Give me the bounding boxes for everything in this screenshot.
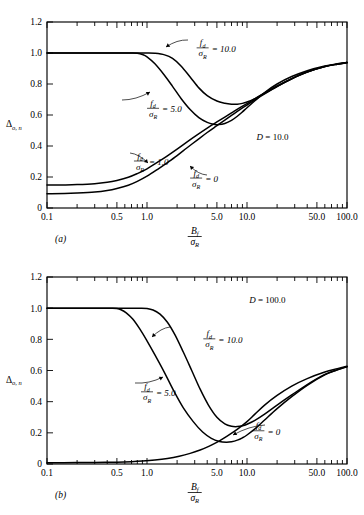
- x-tick-label: 50.0: [309, 212, 326, 222]
- y-tick-label: 0.6: [30, 366, 42, 376]
- panel-a-canvas: 0.10.51.05.010.050.0100.000.20.40.60.81.…: [0, 0, 364, 258]
- x-tick-label: 0.1: [41, 468, 53, 478]
- curve-parameter-annotation: fdσR= 5.0: [147, 98, 182, 120]
- y-tick-label: 0.8: [30, 79, 42, 89]
- param-denominator: σR: [149, 109, 157, 120]
- param-value: = 0: [267, 427, 280, 437]
- x-tick-label: 0.1: [41, 212, 53, 222]
- panel-label: (a): [55, 234, 66, 245]
- x-tick-label: 0.5: [111, 212, 123, 222]
- annotation-leader-line: [122, 92, 150, 100]
- data-curve: [47, 53, 347, 125]
- chart-panel-a: 0.10.51.05.010.050.0100.000.20.40.60.81.…: [0, 0, 364, 258]
- panel-b-canvas: 0.10.51.05.010.050.0100.000.20.40.60.81.…: [0, 255, 364, 515]
- plot-frame: [47, 22, 347, 208]
- curve-parameter-annotation: fdσR= 10.0: [203, 328, 243, 350]
- panel-a-svg: 0.10.51.05.010.050.0100.000.20.40.60.81.…: [0, 0, 364, 258]
- param-value: = 10.0: [212, 44, 237, 54]
- x-axis-label-denominator: σR: [190, 493, 199, 504]
- plot-frame: [47, 277, 347, 464]
- y-tick-label: 0.8: [30, 335, 42, 345]
- x-tick-label: 5.0: [211, 212, 223, 222]
- param-numerator: fd: [137, 151, 144, 162]
- data-curve: [47, 53, 347, 104]
- chart-panel-b: 0.10.51.05.010.050.0100.000.20.40.60.81.…: [0, 255, 364, 515]
- param-denominator: σR: [205, 339, 213, 350]
- param-value: = 5.0: [156, 388, 176, 398]
- param-denominator: σR: [254, 431, 262, 442]
- curve-parameter-annotation: fdσR= 0: [252, 420, 280, 442]
- param-numerator: fd: [207, 328, 214, 339]
- x-tick-label: 1.0: [141, 468, 153, 478]
- y-tick-label: 1.0: [30, 48, 42, 58]
- param-denominator: σR: [143, 392, 151, 403]
- param-value: = 0: [205, 174, 218, 184]
- data-curve: [47, 63, 347, 185]
- y-tick-label: 0: [37, 203, 42, 213]
- x-axis-label-numerator: Bf: [191, 482, 200, 493]
- curve-parameter-annotation: fdσR= 10.0: [197, 37, 237, 59]
- y-tick-label: 0.2: [30, 172, 42, 182]
- annotation-leader-line: [135, 377, 163, 383]
- x-tick-label: 100.0: [336, 212, 358, 222]
- x-tick-label: 10.0: [239, 468, 256, 478]
- param-denominator: σR: [136, 162, 144, 173]
- x-tick-label: 5.0: [211, 468, 223, 478]
- panel-b-svg: 0.10.51.05.010.050.0100.000.20.40.60.81.…: [0, 255, 364, 515]
- x-axis-label-denominator: σR: [190, 237, 199, 248]
- y-tick-label: 0.4: [30, 397, 42, 407]
- param-value: = 10.0: [218, 335, 243, 345]
- x-axis-label-numerator: Bf: [191, 226, 200, 237]
- x-tick-label: 1.0: [141, 212, 153, 222]
- data-curve: [47, 308, 347, 427]
- param-value: = 1.0: [149, 157, 169, 167]
- param-numerator: fd: [150, 98, 157, 109]
- param-numerator: fd: [200, 37, 207, 48]
- y-axis-label: Δo, n: [6, 375, 22, 386]
- curve-parameter-annotation: fdσR= 0: [190, 168, 218, 190]
- y-tick-label: 1.2: [30, 17, 42, 27]
- param-denominator: σR: [192, 179, 200, 190]
- x-tick-label: 50.0: [309, 468, 326, 478]
- y-tick-label: 1.0: [30, 304, 42, 314]
- param-value: = 5.0: [162, 104, 182, 114]
- param-numerator: fd: [193, 168, 200, 179]
- x-tick-label: 100.0: [336, 468, 358, 478]
- y-tick-label: 0.4: [30, 141, 42, 151]
- d-parameter-annotation: D = 10.0: [256, 132, 289, 142]
- y-tick-label: 0.6: [30, 110, 42, 120]
- y-axis-label: Δo, n: [6, 119, 22, 130]
- y-tick-label: 0.2: [30, 428, 42, 438]
- data-curve: [47, 308, 347, 442]
- param-denominator: σR: [199, 48, 207, 59]
- curve-parameter-annotation: fdσR= 1.0: [134, 151, 169, 173]
- d-parameter-annotation: D = 100.0: [248, 295, 286, 305]
- x-tick-label: 0.5: [111, 468, 123, 478]
- x-tick-label: 10.0: [239, 212, 256, 222]
- y-tick-label: 1.2: [30, 272, 42, 282]
- y-tick-label: 0: [37, 459, 42, 469]
- panel-label: (b): [55, 490, 66, 501]
